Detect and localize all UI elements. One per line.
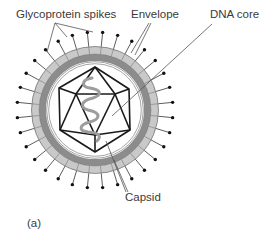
spike-knob [25,72,28,75]
spike-stem [27,140,39,147]
spike-knob [19,86,22,89]
label-dna-core: DNA core [210,9,259,21]
spike-knob [44,48,47,51]
spike-stem [73,36,77,49]
label-capsid: Capsid [125,192,161,204]
spike-stem [21,128,34,132]
spike-stem [158,116,172,117]
spike-knob [171,116,174,119]
spike-knob [168,131,171,134]
spike-stem [18,116,32,117]
spike-knob [101,186,104,189]
label-glycoprotein-spikes: Glycoprotein spikes [16,9,116,21]
spike-knob [86,186,89,189]
spike-stem [113,36,117,49]
spike-stem [58,42,65,54]
spike-knob [162,145,165,148]
spike-stem [21,88,34,92]
spike-stem [101,173,102,187]
spikes-leader-1 [47,23,55,52]
virus-diagram: Glycoprotein spikes Envelope DNA core Ca… [0,0,269,232]
spike-knob [143,169,146,172]
spike-knob [33,59,36,62]
spike-knob [44,169,47,172]
spike-stem [35,61,46,70]
label-envelope: Envelope [131,9,179,21]
spike-knob [168,86,171,89]
spike-knob [162,72,165,75]
spike-knob [101,31,104,34]
spike-stem [87,33,88,47]
spike-stem [144,61,155,70]
panel-label: (a) [27,218,41,230]
spike-stem [135,159,144,170]
spike-stem [35,150,46,159]
spike-stem [73,171,77,184]
spike-stem [125,42,132,54]
spike-stem [151,140,163,147]
spike-knob [143,48,146,51]
spike-stem [113,171,117,184]
spike-knob [116,183,119,186]
envelope [32,47,159,174]
spike-stem [27,73,39,80]
spike-stem [144,150,155,159]
spike-knob [16,116,19,119]
spike-knob [130,177,133,180]
spike-knob [116,34,119,37]
spike-stem [156,88,169,92]
spike-stem [18,102,32,103]
spike-knob [19,131,22,134]
spike-stem [125,166,132,178]
spike-knob [154,59,157,62]
spike-knob [71,34,74,37]
spike-knob [57,177,60,180]
spike-knob [16,101,19,104]
envelope-leader-1 [131,23,149,53]
spike-knob [57,40,60,43]
spike-knob [71,183,74,186]
spike-stem [58,166,65,178]
spike-knob [171,101,174,104]
spike-stem [101,33,102,47]
spike-knob [130,40,133,43]
spike-stem [87,173,88,187]
spike-knob [33,158,36,161]
spike-knob [25,145,28,148]
spike-stem [158,102,172,103]
spike-stem [156,128,169,132]
spike-stem [46,159,55,170]
spikes-leader-3 [55,23,93,32]
spike-knob [154,158,157,161]
